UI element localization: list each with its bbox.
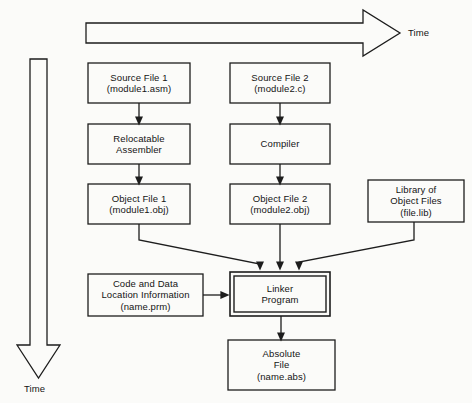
flow-diagram: Source File 1 (module1.asm) Source File … — [0, 0, 472, 403]
node-box-code-and-data-location — [88, 274, 203, 316]
vertical-time-arrow — [17, 59, 60, 378]
node-box-source-file-2 — [230, 63, 330, 103]
arrow-object1-to-linker — [139, 224, 260, 266]
node-box-source-file-1 — [88, 63, 190, 103]
vertical-time-axis-label: Time — [24, 383, 45, 394]
node-box-library-of-object-files — [368, 180, 464, 222]
node-box-compiler — [230, 124, 330, 164]
horizontal-time-arrow — [86, 10, 400, 56]
node-box-absolute-file — [228, 340, 335, 390]
node-box-linker-program-inner — [234, 276, 326, 312]
node-box-object-file-2 — [230, 184, 330, 224]
node-box-object-file-1 — [88, 184, 190, 224]
horizontal-time-axis-label: Time — [408, 27, 429, 38]
arrow-library-to-linker — [299, 222, 414, 266]
diagram-canvas — [0, 0, 472, 403]
node-box-relocatable-assembler — [88, 124, 190, 164]
